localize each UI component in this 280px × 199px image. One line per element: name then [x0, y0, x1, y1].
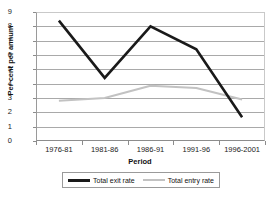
y-axis-tick-mark — [33, 12, 36, 13]
y-axis-tick-label: 6 — [0, 51, 12, 59]
legend-label-entry: Total entry rate — [168, 177, 214, 184]
gridline — [37, 112, 264, 113]
y-axis-tick-label: 4 — [0, 80, 12, 88]
x-axis-tick-label: 1981-86 — [81, 146, 129, 154]
y-axis-tick-mark — [33, 26, 36, 27]
x-axis-tick-label: 1986-91 — [127, 146, 175, 154]
gridline — [37, 69, 264, 70]
legend-item-total-exit-rate: Total exit rate — [68, 177, 135, 184]
x-axis-tick-mark — [219, 141, 220, 145]
x-axis-title: Period — [0, 157, 280, 166]
gridline — [37, 127, 264, 128]
gridline — [37, 84, 264, 85]
legend-label-exit: Total exit rate — [93, 177, 135, 184]
legend-swatch-icon-entry — [143, 179, 165, 181]
y-axis-tick-label: 7 — [0, 37, 12, 45]
x-axis-tick-mark — [128, 141, 129, 145]
y-axis-tick-label: 2 — [0, 108, 12, 116]
gridline — [37, 55, 264, 56]
line-chart: Per cent per annum 0123456789 1976-81198… — [0, 0, 280, 199]
y-axis-tick-label: 8 — [0, 22, 12, 30]
y-axis-tick-label: 9 — [0, 8, 12, 16]
x-axis-tick-mark — [265, 141, 266, 145]
y-axis-tick-mark — [33, 84, 36, 85]
x-axis-tick-mark — [82, 141, 83, 145]
y-axis-tick-mark — [33, 112, 36, 113]
chart-legend: Total exit rate Total entry rate — [62, 172, 220, 188]
x-axis-tick-mark — [36, 141, 37, 145]
gridline — [37, 26, 264, 27]
y-axis-tick-label: 0 — [0, 137, 12, 145]
y-axis-tick-label: 3 — [0, 94, 12, 102]
y-axis-tick-label: 1 — [0, 123, 12, 131]
gridline — [37, 41, 264, 42]
y-axis-tick-mark — [33, 41, 36, 42]
legend-item-total-entry-rate: Total entry rate — [143, 177, 214, 184]
x-axis-tick-mark — [173, 141, 174, 145]
x-axis-tick-label: 1976-81 — [35, 146, 83, 154]
legend-swatch-icon-exit — [68, 179, 90, 182]
x-axis-tick-label: 1991-96 — [172, 146, 220, 154]
plot-area — [36, 12, 265, 141]
y-axis-tick-label: 5 — [0, 65, 12, 73]
y-axis-tick-mark — [33, 69, 36, 70]
x-axis-tick-label: 1996-2001 — [218, 146, 266, 154]
y-axis-tick-mark — [33, 127, 36, 128]
y-axis-tick-mark — [33, 98, 36, 99]
gridline — [37, 98, 264, 99]
y-axis-tick-mark — [33, 55, 36, 56]
